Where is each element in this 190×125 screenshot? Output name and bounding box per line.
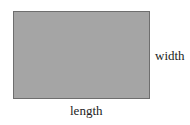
length-label: length (70, 104, 103, 117)
rectangle-shape (13, 11, 150, 99)
width-label: width (155, 49, 185, 62)
